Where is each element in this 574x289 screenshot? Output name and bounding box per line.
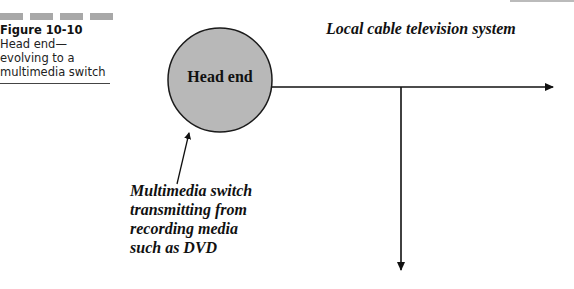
annotation-line: recording media	[130, 219, 330, 238]
pointer-arrow-to-head-end	[177, 133, 189, 184]
annotation-line: Multimedia switch	[130, 181, 330, 200]
multimedia-switch-annotation: Multimedia switch transmitting from reco…	[130, 181, 330, 257]
annotation-line: such as DVD	[130, 238, 330, 257]
annotation-line: transmitting from	[130, 200, 330, 219]
system-label: Local cable television system	[326, 20, 516, 38]
head-end-label: Head end	[168, 68, 272, 86]
